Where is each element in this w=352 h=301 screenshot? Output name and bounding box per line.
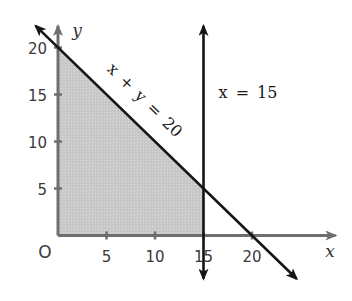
- y-tick-label: 5: [37, 181, 47, 199]
- y-tick-label: 10: [28, 134, 47, 152]
- inequality-graph: 51015205101520 x y O x + y = 20 x = 15: [0, 0, 352, 301]
- x-tick-label: 20: [242, 248, 261, 266]
- y-axis-label: y: [71, 20, 82, 40]
- y-tick-label: 20: [28, 40, 47, 58]
- x-tick-label: 5: [102, 248, 112, 266]
- line-label-x-equals-15: x = 15: [219, 83, 278, 102]
- x-axis-label: x: [325, 241, 335, 261]
- origin-label: O: [38, 242, 51, 262]
- y-tick-label: 15: [28, 87, 47, 105]
- x-tick-label: 10: [145, 248, 164, 266]
